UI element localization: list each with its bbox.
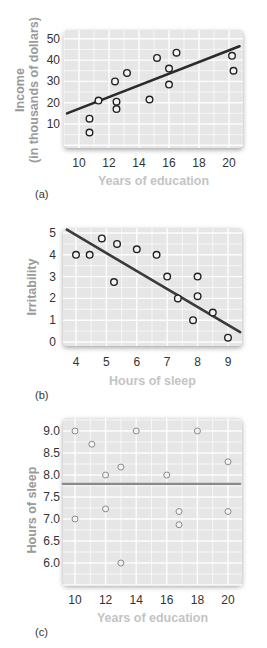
y-tick-label: 9.0 — [30, 424, 60, 438]
y-tick-label: 8.0 — [30, 468, 60, 482]
data-point — [164, 472, 170, 478]
y-tick-label: 7.0 — [30, 512, 60, 526]
data-point — [194, 428, 200, 434]
x-tick-label: 16 — [157, 593, 177, 607]
x-tick-label: 14 — [126, 593, 146, 607]
y-tick-label: 6.0 — [30, 556, 60, 570]
data-point — [103, 506, 109, 512]
y-tick-label: 7.5 — [30, 490, 60, 504]
data-point — [225, 509, 231, 515]
data-point — [103, 472, 109, 478]
x-tick-label: 12 — [96, 593, 116, 607]
x-tick-label: 10 — [65, 593, 85, 607]
data-point — [89, 441, 95, 447]
x-tick-label: 18 — [187, 593, 207, 607]
data-point — [176, 509, 182, 515]
data-point — [118, 464, 124, 470]
y-tick-label: 6.5 — [30, 534, 60, 548]
y-tick-label: 8.5 — [30, 446, 60, 460]
data-point — [133, 428, 139, 434]
data-point — [72, 516, 78, 522]
chart-c-sleep-vs-education: Hours of sleep Years of education (c) 10… — [0, 0, 267, 648]
panel-label: (c) — [35, 626, 48, 638]
data-point — [118, 560, 124, 566]
x-tick-label: 20 — [218, 593, 238, 607]
x-axis-label: Years of education — [63, 611, 242, 625]
chart-c-svg — [0, 0, 267, 648]
data-point — [176, 522, 182, 528]
data-point — [225, 459, 231, 465]
data-point — [72, 428, 78, 434]
